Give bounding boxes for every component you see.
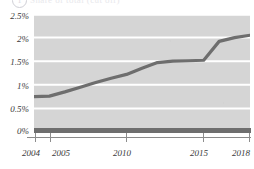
y-tick-label: 0% xyxy=(17,127,29,136)
plot-area xyxy=(34,14,250,132)
chart-container: 1 Share of total (cut off) 2.5% 2% 1.5% … xyxy=(0,0,254,169)
x-tick-2015 xyxy=(203,133,204,142)
y-tick-label: 2.5% xyxy=(10,12,29,21)
x-tick-2005 xyxy=(50,133,51,142)
plot-svg xyxy=(34,14,250,132)
y-axis-labels: 2.5% 2% 1.5% 1% 0.5% 0% xyxy=(0,0,32,169)
y-tick-label: 2% xyxy=(17,35,29,44)
data-line-series xyxy=(34,35,250,96)
y-tick-label: 0.5% xyxy=(10,105,29,114)
gridlines xyxy=(34,15,250,109)
y-tick-label: 1% xyxy=(17,82,29,91)
x-tick-label-2005: 2005 xyxy=(52,148,70,158)
x-tick-label-2015: 2015 xyxy=(190,148,208,158)
x-tick-label-2018: 2018 xyxy=(232,148,250,158)
x-tick-label-2010: 2010 xyxy=(113,148,131,158)
zero-baseline-bar xyxy=(34,128,251,133)
y-tick-label: 1.5% xyxy=(10,58,29,67)
x-tick-2010 xyxy=(126,133,127,142)
x-tick-label-2004: 2004 xyxy=(22,148,40,158)
x-tick-2004 xyxy=(35,133,36,142)
x-tick-2018 xyxy=(249,133,250,142)
x-axis-rule xyxy=(27,137,251,138)
header-strip: 1 Share of total (cut off) xyxy=(0,0,254,10)
chart-title-cutoff: Share of total (cut off) xyxy=(30,0,120,5)
